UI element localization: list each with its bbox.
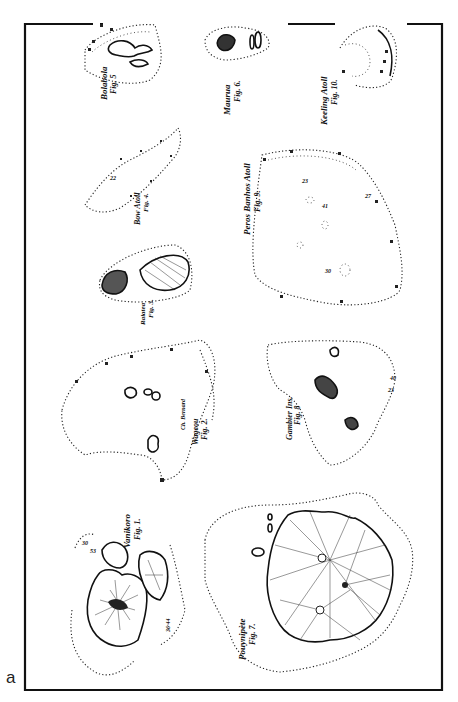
depth-peros-30: 30 bbox=[324, 268, 331, 274]
figlabel-wageou: Fig. 2. bbox=[200, 418, 209, 441]
figlabel-gambier-ins: Fig. 8 bbox=[293, 405, 302, 426]
label-bow-atoll: Bow Atoll bbox=[133, 192, 142, 226]
map-keeling-atoll: Keeling Atoll Fig. 10. bbox=[319, 26, 396, 126]
map-wageou: Ch. Bernard Wageou Fig. 2. bbox=[62, 340, 215, 482]
depth-gambier-23: 23 bbox=[387, 387, 394, 393]
depth-peros-23: 23 bbox=[301, 178, 308, 184]
figlabel-maurua: Fig. 6. bbox=[233, 80, 242, 103]
map-peros-banhos-atoll: 23 41 30 27 Peros Banhos Atoll Fig. 9. bbox=[242, 150, 402, 305]
map-gambier-ins: 23 40 Gambier Ins. Fig. 8 bbox=[267, 341, 396, 465]
label-raiatea: Raiatea bbox=[139, 302, 147, 326]
label-bolabola: Bolabola bbox=[99, 66, 109, 101]
label-peros-banhos-atoll: Peros Banhos Atoll bbox=[242, 163, 252, 235]
label-maurua: Maurua bbox=[222, 84, 232, 116]
map-raiatea: Raiatea Fig. 3. bbox=[100, 245, 192, 326]
depth-vanikoro-53: 53 bbox=[90, 548, 96, 554]
map-maurua: Maurua Fig. 6. bbox=[205, 27, 269, 116]
figlabel-bolabola: Fig. 5 bbox=[109, 74, 118, 95]
depth-gambier-40: 40 bbox=[389, 375, 396, 381]
map-bolabola: Bolabola Fig. 5 bbox=[85, 24, 161, 101]
figlabel-raiatea: Fig. 3. bbox=[147, 299, 155, 318]
depth-vanikoro-3644: 36·44 bbox=[165, 619, 171, 634]
depth-peros-41: 41 bbox=[321, 203, 328, 209]
figlabel-keeling-atoll: Fig. 10. bbox=[330, 79, 339, 106]
figlabel-bow-atoll: Fig. 4. bbox=[142, 193, 150, 212]
map-pouynipete: Pouynipète Fig. 7. bbox=[205, 493, 413, 672]
figlabel-vanikoro: Fig. 1. bbox=[133, 518, 142, 541]
map-vanikoro: 30 53 36·44 Vanikoro Fig. 1. bbox=[71, 513, 185, 674]
panel-label: a bbox=[6, 668, 15, 688]
map-bow-atoll: 22 Bow Atoll Fig. 4. bbox=[85, 128, 180, 226]
label-pouynipete: Pouynipète bbox=[237, 619, 247, 661]
depth-peros-27: 27 bbox=[364, 193, 372, 199]
label-vanikoro: Vanikoro bbox=[122, 513, 132, 548]
atoll-map-plate: Bolabola Fig. 5 Maurua Fig. 6. Keeling A… bbox=[0, 0, 458, 702]
label-keeling-atoll: Keeling Atoll bbox=[319, 76, 329, 126]
figlabel-pouynipete: Fig. 7. bbox=[248, 623, 257, 646]
depth-vanikoro-30: 30 bbox=[81, 540, 88, 546]
label-wageou: Wageou bbox=[191, 418, 200, 445]
depth-bow-22: 22 bbox=[109, 175, 116, 181]
label-wageou-extra: Ch. Bernard bbox=[180, 398, 186, 430]
figlabel-peros-banhos-atoll: Fig. 9. bbox=[253, 190, 262, 213]
